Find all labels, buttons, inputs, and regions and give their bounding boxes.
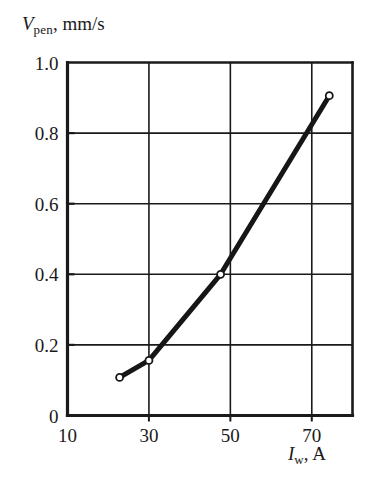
gridlines (68, 63, 353, 416)
data-point-marker (145, 357, 152, 364)
tick-marks (68, 133, 312, 421)
data-series (120, 96, 330, 378)
series-line (120, 96, 330, 378)
plot-area (0, 0, 378, 485)
data-point-marker (326, 92, 333, 99)
data-point-marker (116, 374, 123, 381)
axis-frame (68, 63, 353, 416)
figure: Vpen, mm/s Iw, A 00.20.40.60.81.0 103050… (0, 0, 378, 485)
data-point-marker (217, 271, 224, 278)
